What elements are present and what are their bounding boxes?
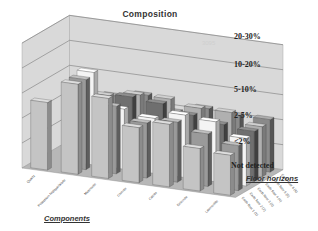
- bar: [61, 80, 82, 175]
- category-label: Quartz: [26, 174, 36, 184]
- category-label: Calcite: [148, 191, 158, 201]
- y-tick-2-5: 2-5%: [234, 111, 253, 120]
- bar: [122, 123, 143, 183]
- bar: [92, 94, 113, 179]
- y-tick-lt2: <2%: [234, 137, 251, 146]
- floor-horizons-axis-title: Floor horizons: [246, 174, 298, 183]
- category-label: Chlorite: [116, 187, 127, 198]
- bar: [153, 120, 174, 187]
- watermark: 3095: [202, 40, 216, 46]
- category-label: Dolomite: [176, 195, 188, 207]
- y-tick-5-10: 5-10%: [234, 85, 257, 94]
- category-label: Laumontite: [204, 199, 219, 214]
- y-tick-10-20: 10-20%: [234, 60, 261, 69]
- bar: [31, 98, 52, 170]
- category-label: Muscovite: [83, 182, 97, 196]
- chart-plot-area: 3095QuartzPotassium feldspar/albiteMusco…: [0, 0, 318, 231]
- bar: [183, 144, 204, 191]
- y-tick-not-detected: Not detected: [231, 161, 274, 170]
- components-axis-title: Components: [44, 214, 90, 223]
- category-label: Potassium feldspar/albite: [37, 178, 67, 208]
- bar: [214, 151, 235, 196]
- y-tick-20-30: 20-30%: [234, 32, 261, 41]
